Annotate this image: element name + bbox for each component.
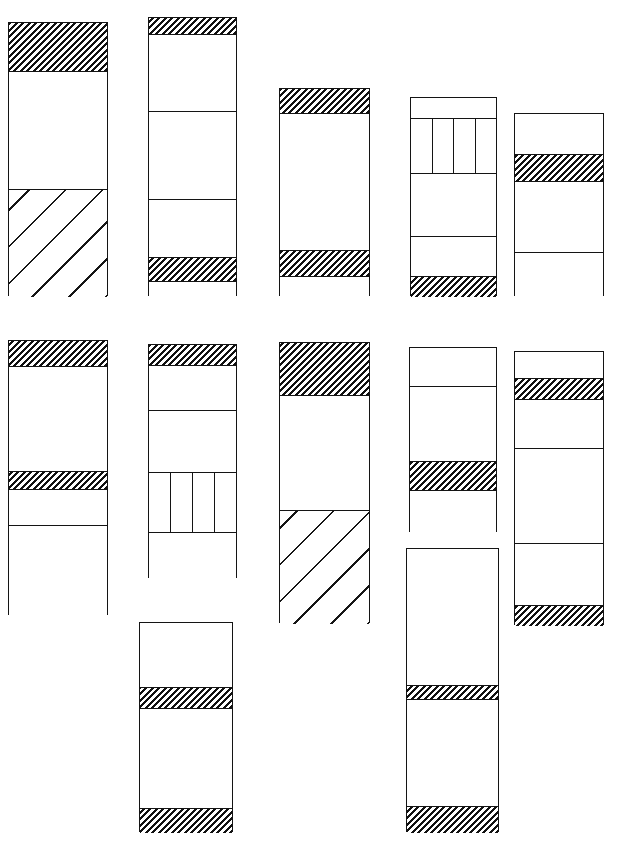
column-r1c4: [410, 97, 497, 296]
segment-r1c3-1-hatch-dense: [280, 89, 369, 113]
segment-r1c4-5-hatch-dense: [411, 276, 496, 297]
segment-r1c4-3-plain: [411, 173, 496, 236]
segment-r1c5-4-plain: [515, 252, 603, 297]
segment-r1c3-2-plain: [280, 113, 369, 250]
segment-r3c2-2-hatch-dense: [140, 687, 232, 708]
column-r2c5: [514, 351, 604, 625]
segment-cell-r1c4-2-3: [453, 119, 475, 173]
segment-r1c3-3-hatch-dense: [280, 250, 369, 276]
segment-r2c4-1-plain: [410, 348, 496, 386]
segment-r1c2-1-hatch-dense: [149, 18, 236, 34]
segment-r2c3-3-hatch-sparse: [280, 510, 369, 624]
segment-cell-r2c2-4-1: [149, 473, 170, 532]
segment-r2c5-5-plain: [515, 543, 603, 605]
segment-r2c1-3-hatch-dense: [9, 471, 107, 489]
segment-r1c5-3-plain: [515, 181, 603, 252]
segment-r2c2-4-vertical-divided: [149, 472, 236, 532]
segment-r1c1-2-plain: [9, 71, 107, 189]
segment-r1c4-2-vertical-divided: [411, 118, 496, 173]
segment-r2c5-1-plain: [515, 352, 603, 378]
segment-r2c4-3-hatch-dense: [410, 461, 496, 490]
segment-r1c2-2-plain: [149, 34, 236, 111]
segment-r1c5-2-hatch-dense: [515, 154, 603, 181]
segment-cell-r2c2-4-4: [214, 473, 236, 532]
segment-r2c5-6-hatch-dense: [515, 605, 603, 626]
segment-r1c3-4-plain: [280, 276, 369, 297]
column-r1c2: [148, 17, 237, 296]
segment-r1c2-6-plain: [149, 281, 236, 297]
segment-r2c1-4-plain: [9, 489, 107, 525]
segment-r2c2-1-hatch-dense: [149, 345, 236, 365]
segment-r3c4-1-plain: [407, 549, 498, 685]
segment-r1c2-5-hatch-dense: [149, 257, 236, 281]
segment-r2c4-2-plain: [410, 386, 496, 461]
segment-r3c2-3-plain: [140, 708, 232, 808]
segment-r2c2-3-plain: [149, 410, 236, 472]
column-r3c4: [406, 548, 499, 832]
segment-r1c4-1-plain: [411, 98, 496, 118]
segment-r3c2-1-plain: [140, 623, 232, 687]
segment-r3c4-3-plain: [407, 699, 498, 806]
segment-r2c3-2-plain: [280, 395, 369, 510]
segment-r2c4-4-plain: [410, 490, 496, 533]
segment-r2c1-2-plain: [9, 366, 107, 471]
segment-cell-r1c4-2-1: [411, 119, 432, 173]
segment-r2c2-5-plain: [149, 532, 236, 579]
segment-r2c1-5-plain: [9, 525, 107, 616]
segment-r2c2-2-plain: [149, 365, 236, 410]
column-r1c5: [514, 113, 604, 296]
column-r1c1: [8, 22, 108, 296]
segment-r1c5-1-plain: [515, 114, 603, 154]
segment-r1c2-3-plain: [149, 111, 236, 199]
column-r3c2: [139, 622, 233, 832]
column-r2c3: [279, 342, 370, 623]
segment-r3c2-4-hatch-dense: [140, 808, 232, 833]
segment-r2c5-3-plain: [515, 399, 603, 448]
segment-r2c1-1-hatch-dense: [9, 341, 107, 366]
segment-r1c1-3-hatch-sparse: [9, 189, 107, 297]
column-r2c1: [8, 340, 108, 615]
column-r1c3: [279, 88, 370, 296]
segment-r2c5-2-hatch-dense: [515, 378, 603, 399]
segment-r2c3-1-hatch-dense: [280, 343, 369, 395]
column-r2c4: [409, 347, 497, 532]
stratigraphic-column-figure: [0, 0, 644, 845]
segment-cell-r1c4-2-4: [475, 119, 497, 173]
segment-r1c1-1-hatch-dense: [9, 23, 107, 71]
column-r2c2: [148, 344, 237, 578]
segment-cell-r2c2-4-3: [192, 473, 214, 532]
segment-r3c4-4-hatch-dense: [407, 806, 498, 833]
segment-cell-r2c2-4-2: [170, 473, 192, 532]
segment-r3c4-2-hatch-dense: [407, 685, 498, 699]
segment-r1c2-4-plain: [149, 199, 236, 257]
segment-r1c4-4-plain: [411, 236, 496, 276]
segment-cell-r1c4-2-2: [432, 119, 454, 173]
segment-r2c5-4-plain: [515, 448, 603, 543]
